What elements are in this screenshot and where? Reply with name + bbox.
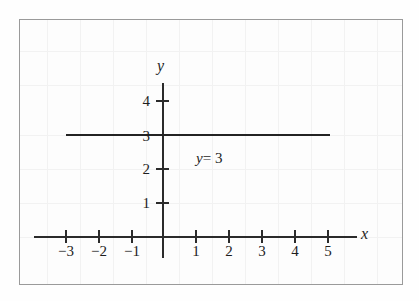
grid-line-vertical	[179, 20, 180, 284]
x-tick-label-1: 1	[192, 244, 200, 259]
x-tick-label-3: 3	[258, 244, 266, 259]
grid-line-vertical	[146, 20, 147, 284]
x-axis-label: x	[361, 226, 368, 242]
grid-line-vertical	[113, 20, 114, 284]
y-tick-4	[156, 100, 169, 102]
x-tick-label-neg3: −3	[58, 244, 74, 259]
x-tick-label-neg1: −1	[124, 244, 140, 259]
x-tick-label-4: 4	[291, 244, 299, 259]
line-equation-value: = 3	[203, 150, 223, 166]
line-y-equals-3	[66, 134, 330, 136]
grid-line-vertical	[245, 20, 246, 284]
line-equation-variable: y	[196, 150, 203, 166]
y-axis-label: y	[157, 58, 164, 74]
plot-frame: −3 −2 −1 1 2 3 4 5 4 3 2 1 y x y= 3	[19, 19, 403, 285]
x-tick-5	[327, 230, 329, 243]
x-tick-4	[294, 230, 296, 243]
x-tick-label-2: 2	[225, 244, 233, 259]
grid-line-vertical	[47, 20, 48, 284]
x-tick-1	[195, 230, 197, 243]
line-equation-label: y= 3	[196, 151, 222, 166]
grid-line-horizontal	[20, 169, 402, 170]
y-tick-label-3: 3	[132, 129, 150, 144]
grid-line-vertical	[311, 20, 312, 284]
grid-line-vertical	[278, 20, 279, 284]
y-tick-label-1: 1	[132, 196, 150, 211]
x-tick-neg2	[98, 230, 100, 243]
grid-line-vertical	[377, 20, 378, 284]
x-tick-neg1	[131, 230, 133, 243]
y-axis-line	[162, 83, 164, 258]
y-tick-1	[156, 202, 169, 204]
y-tick-label-4: 4	[132, 94, 150, 109]
figure-container: −3 −2 −1 1 2 3 4 5 4 3 2 1 y x y= 3	[0, 0, 419, 301]
grid-line-horizontal	[20, 203, 402, 204]
x-tick-label-5: 5	[324, 244, 332, 259]
y-tick-2	[156, 168, 169, 170]
x-tick-neg3	[65, 230, 67, 243]
x-tick-3	[261, 230, 263, 243]
grid-line-horizontal	[20, 85, 402, 86]
y-tick-label-2: 2	[132, 162, 150, 177]
x-tick-2	[228, 230, 230, 243]
grid-line-vertical	[80, 20, 81, 284]
grid-line-vertical	[344, 20, 345, 284]
x-tick-label-neg2: −2	[91, 244, 107, 259]
grid-line-horizontal	[20, 51, 402, 52]
